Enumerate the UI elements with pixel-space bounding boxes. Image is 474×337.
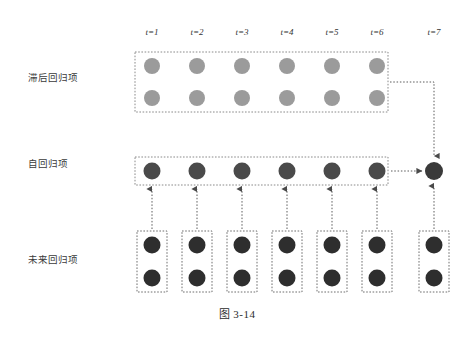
node-future-t2-b — [189, 270, 206, 287]
diagram-canvas — [0, 0, 474, 337]
node-auto-t4 — [279, 163, 296, 180]
node-future-t5-b — [324, 270, 341, 287]
group-box-lagged — [135, 52, 388, 112]
node-auto-t2 — [189, 163, 206, 180]
node-future-t4-b — [279, 270, 296, 287]
node-lagged-t1-b — [144, 90, 160, 106]
node-group-lagged-row2 — [144, 90, 385, 106]
node-future-t1-a — [144, 237, 161, 254]
node-lagged-t6-a — [369, 58, 385, 74]
node-group-autoregressive — [144, 163, 386, 180]
node-lagged-t5-b — [324, 90, 340, 106]
node-auto-t5 — [324, 163, 341, 180]
node-output-t7 — [425, 162, 443, 180]
node-future-t7-a — [426, 237, 443, 254]
node-future-t3-b — [234, 270, 251, 287]
node-auto-t6 — [369, 163, 386, 180]
node-future-t6-b — [369, 270, 386, 287]
node-auto-t1 — [144, 163, 161, 180]
node-group-lagged-row1 — [144, 58, 385, 74]
node-auto-t3 — [234, 163, 251, 180]
node-lagged-t4-a — [279, 58, 295, 74]
node-lagged-t6-b — [369, 90, 385, 106]
node-group-future-row1 — [144, 237, 443, 254]
group-box-autoregressive — [135, 157, 388, 185]
node-future-t2-a — [189, 237, 206, 254]
node-lagged-t5-a — [324, 58, 340, 74]
figure-caption: 图 3-14 — [0, 305, 474, 321]
node-future-t7-b — [426, 270, 443, 287]
node-future-t5-a — [324, 237, 341, 254]
node-future-t6-a — [369, 237, 386, 254]
figure-diagram: t=1 t=2 t=3 t=4 t=5 t=6 t=7 滞后回归项 自回归项 未… — [0, 0, 474, 337]
node-future-t3-a — [234, 237, 251, 254]
connector-lagged-to-output — [390, 82, 434, 156]
node-lagged-t2-a — [189, 58, 205, 74]
node-lagged-t3-b — [234, 90, 250, 106]
node-lagged-t3-a — [234, 58, 250, 74]
node-lagged-t4-b — [279, 90, 295, 106]
node-future-t4-a — [279, 237, 296, 254]
connectors-future-to-autoregressive — [152, 186, 434, 229]
node-future-t1-b — [144, 270, 161, 287]
node-group-future-row2 — [144, 270, 443, 287]
node-lagged-t1-a — [144, 58, 160, 74]
node-lagged-t2-b — [189, 90, 205, 106]
